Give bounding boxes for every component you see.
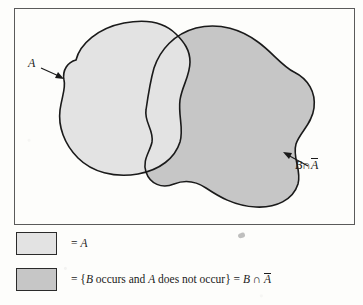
intersection-symbol: ∩ [302,158,311,172]
legend-label-a: = A [71,238,87,250]
figure-page: A B∩A = A = {B occurs and A does not occ… [0,0,363,305]
label-region-a: A [28,57,35,69]
legend-b-letter-1: B [86,273,93,285]
legend-a-lead: = [71,237,80,249]
legend-b-mid-1: occurs and [93,273,148,285]
label-region-b-int-abar: B∩A [295,158,318,171]
legend-swatch-dark [16,268,57,291]
legend-label-b-int-abar: = {B occurs and A does not occur} = B ∩ … [71,273,271,286]
legend-swatch-light [16,232,57,255]
legend-b-letter-2: B [243,273,250,285]
legend: = A = {B occurs and A does not occur} = … [0,226,363,305]
legend-a-complement: A [264,273,271,286]
legend-a-letter: A [80,237,87,249]
legend-b-mid-2: does not occur} = [155,273,243,285]
region-a-fill [60,21,190,175]
legend-item-b-int-abar: = {B occurs and A does not occur} = B ∩ … [16,268,271,291]
venn-diagram-canvas [14,8,355,225]
legend-intersection-symbol: ∩ [250,273,264,285]
label-a-complement: A [311,158,318,171]
legend-item-a: = A [16,232,87,255]
legend-b-lead: = { [71,273,86,285]
label-a-arrow [41,68,64,79]
label-region-a-text: A [28,56,35,70]
